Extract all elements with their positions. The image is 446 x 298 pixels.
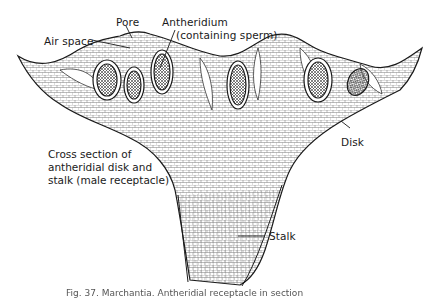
label-antheridium: Antheridium bbox=[162, 16, 228, 28]
description-line-1: Cross section of bbox=[48, 148, 169, 161]
diagram: Pore Air space Antheridium (containing s… bbox=[0, 0, 446, 298]
label-disk: Disk bbox=[341, 136, 364, 148]
figure-caption: Fig. 37. Marchantia. Antheridial recepta… bbox=[66, 288, 303, 298]
label-air-space: Air space bbox=[44, 35, 93, 47]
label-stalk: Stalk bbox=[269, 230, 296, 242]
description-line-2: antheridial disk and bbox=[48, 161, 169, 174]
figure-description: Cross section of antheridial disk and st… bbox=[48, 148, 169, 187]
label-pore: Pore bbox=[116, 16, 139, 28]
description-line-3: stalk (male receptacle) bbox=[48, 174, 169, 187]
label-antheridium-note: (containing sperm) bbox=[176, 29, 278, 41]
